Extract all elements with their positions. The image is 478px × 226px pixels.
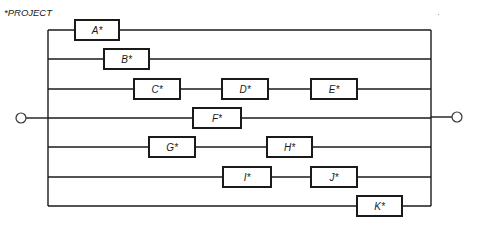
activity-label: C* [151,84,163,95]
activity-label: A* [91,25,104,36]
activity-e: E* [311,79,357,99]
activity-g: G* [149,137,195,157]
activity-b: B* [104,49,149,69]
output-terminal-icon [452,112,462,122]
diagram-title: *PROJECT [4,7,53,18]
activity-label: I* [244,172,252,183]
activity-c: C* [134,79,180,99]
activity-d: D* [222,79,268,99]
input-terminal-icon [16,113,26,123]
activity-label: B* [121,54,133,65]
activity-h: H* [267,137,312,157]
activity-label: H* [284,142,296,153]
activity-label: G* [166,142,179,153]
activity-a: A* [75,20,119,40]
activity-label: J* [329,172,340,183]
activity-label: F* [212,113,223,124]
activity-label: K* [374,201,386,212]
activity-label: D* [239,84,251,95]
activity-i: I* [223,167,271,187]
parallel-project-diagram: *PROJECT A*B*C*D*E*F*G*H*I*J*K* [0,0,478,226]
activity-label: E* [329,84,341,95]
activity-f: F* [193,108,241,128]
activity-j: J* [311,167,357,187]
activity-k: K* [357,196,402,216]
scan-speck [438,14,439,15]
